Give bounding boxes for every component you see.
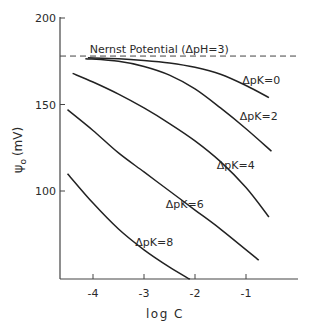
y-tick-label: 200 (35, 12, 56, 25)
annotations: Nernst Potential (ΔpH=3)ΔpK=0ΔpK=2ΔpK=4Δ… (90, 43, 281, 250)
y-axis-label: ψo(mV) (10, 127, 28, 173)
x-tick-label: -2 (190, 287, 201, 300)
annotation-label: ΔpK=8 (135, 236, 173, 249)
annotation-label: ΔpK=4 (217, 159, 255, 172)
curve-pK8 (68, 174, 190, 280)
svg-text:ψo(mV): ψo(mV) (10, 127, 28, 173)
annotation-label: Nernst Potential (ΔpH=3) (90, 43, 229, 56)
x-ticks: -4-3-2-1 (88, 274, 252, 300)
y-label-unit: (mV) (11, 127, 25, 156)
x-tick-label: -4 (88, 287, 99, 300)
curve-pK2 (85, 59, 271, 152)
chart: -4-3-2-1 100150200 Nernst Potential (ΔpH… (0, 0, 311, 330)
y-label-sub: o (18, 159, 28, 165)
y-tick-label: 150 (35, 99, 56, 112)
annotation-label: ΔpK=2 (240, 110, 278, 123)
y-tick-label: 100 (35, 185, 56, 198)
annotation-label: ΔpK=0 (242, 74, 280, 87)
x-tick-label: -3 (139, 287, 150, 300)
x-tick-label: -1 (241, 287, 252, 300)
curve-pK4 (73, 73, 269, 217)
y-label-psi: ψ (10, 165, 25, 174)
annotation-label: ΔpK=6 (166, 198, 204, 211)
x-axis-label: log C (146, 307, 184, 321)
